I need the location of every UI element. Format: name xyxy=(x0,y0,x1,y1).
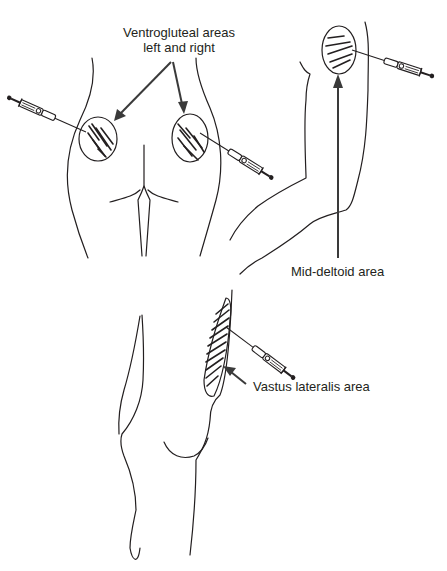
lower-buttock-curve xyxy=(164,438,208,457)
vastus-label: Vastus lateralis area xyxy=(253,379,370,394)
left-buttock-curve xyxy=(110,190,140,202)
right-buttock-curve xyxy=(148,190,178,202)
ventrogluteal-arrows xyxy=(114,62,188,121)
right-ventrogluteal-site xyxy=(172,114,208,162)
diagram-drawing xyxy=(0,0,447,571)
vastus-panel xyxy=(119,290,298,559)
ventrogluteal-label-line2: left and right xyxy=(118,40,240,55)
vastus-lateralis-site xyxy=(204,298,231,396)
back-thigh-outline xyxy=(190,290,232,555)
mid-deltoid-site xyxy=(322,26,356,74)
left-ventrogluteal-site xyxy=(79,117,117,161)
shoulder-outline xyxy=(230,62,310,240)
syringe-icon xyxy=(351,46,436,81)
front-leg-outline xyxy=(121,315,143,559)
deltoid-label: Mid-deltoid area xyxy=(291,264,384,279)
ventrogluteal-label-line1: Ventrogluteal areas xyxy=(118,25,240,40)
deltoid-panel xyxy=(230,22,435,274)
buttock-cleft xyxy=(138,145,144,256)
ventrogluteal-label: Ventrogluteal areas left and right xyxy=(118,25,240,55)
ventrogluteal-panel xyxy=(5,58,275,258)
right-hip-outline xyxy=(196,58,221,256)
syringe-icon xyxy=(198,129,276,182)
injection-sites-diagram: Ventrogluteal areas left and right Mid-d… xyxy=(0,0,447,571)
vastus-arrow xyxy=(231,372,246,384)
